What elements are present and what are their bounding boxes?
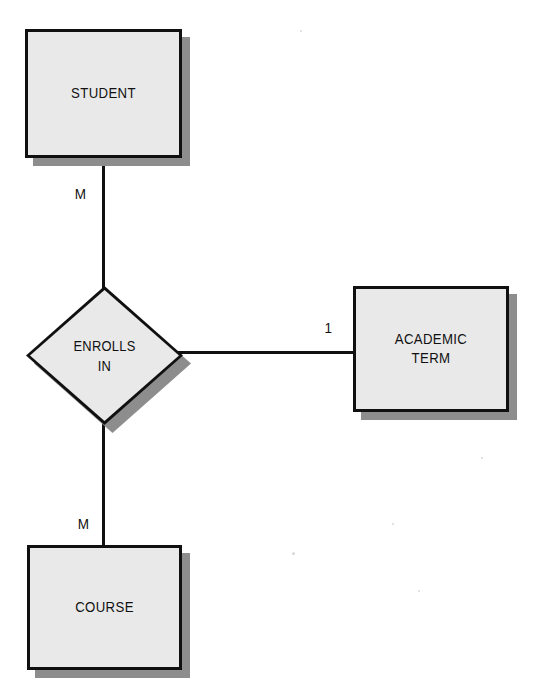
entity-course-label: COURSE bbox=[36, 545, 172, 670]
cardinality-enrolls-in-course: M bbox=[78, 516, 90, 531]
scan-speckle bbox=[292, 552, 295, 555]
scan-speckle bbox=[418, 590, 420, 592]
scan-speckle bbox=[300, 30, 302, 32]
relationship-enrolls-in[interactable]: ENROLLS IN bbox=[26, 286, 183, 425]
connector-enrolls-in-academic-term bbox=[178, 351, 355, 354]
entity-student-label: STUDENT bbox=[34, 29, 172, 158]
cardinality-student-enrolls-in: M bbox=[75, 186, 87, 201]
relationship-enrolls-in-label: ENROLLS IN bbox=[37, 286, 172, 425]
entity-academic-term-label: ACADEMIC TERM bbox=[362, 286, 499, 412]
entity-academic-term[interactable]: ACADEMIC TERM bbox=[353, 286, 509, 412]
er-diagram-canvas: M M 1 STUDENT ENROLLS IN ACADEMIC TERM C… bbox=[0, 0, 538, 689]
entity-student[interactable]: STUDENT bbox=[25, 29, 182, 158]
connector-enrolls-in-course bbox=[102, 420, 105, 547]
entity-course[interactable]: COURSE bbox=[27, 545, 182, 670]
cardinality-enrolls-in-academic-term: 1 bbox=[324, 320, 332, 335]
scan-speckle bbox=[392, 523, 394, 525]
scan-speckle bbox=[481, 457, 483, 459]
connector-student-enrolls-in bbox=[102, 156, 105, 290]
